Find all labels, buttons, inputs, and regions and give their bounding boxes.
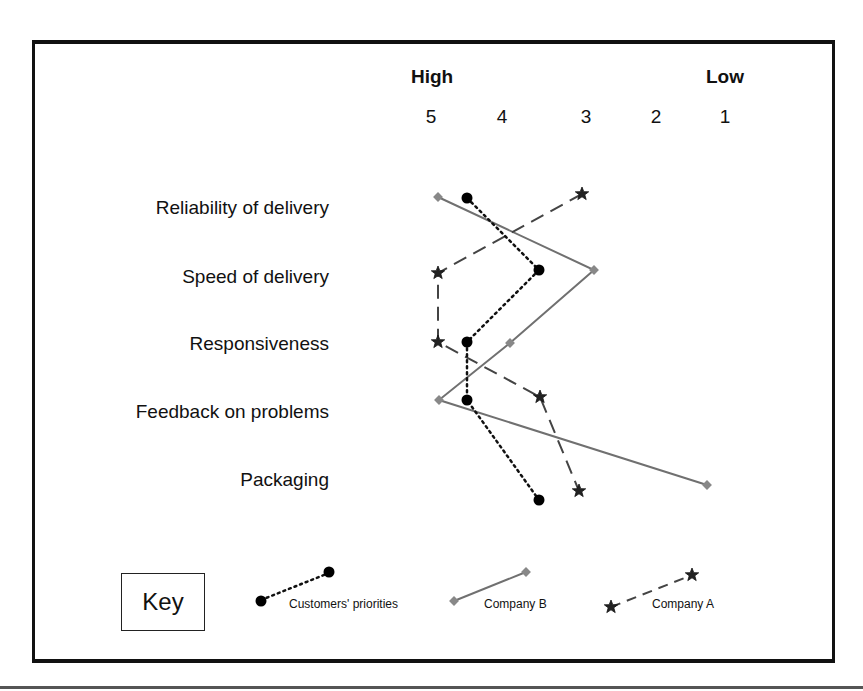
legend-key-box: Key <box>121 573 205 631</box>
legend-label-customers: Customers' priorities <box>289 597 398 611</box>
series-company-b <box>433 192 712 490</box>
legend-label-company-b: Company B <box>484 597 547 611</box>
legend-label-company-a: Company A <box>652 597 714 611</box>
